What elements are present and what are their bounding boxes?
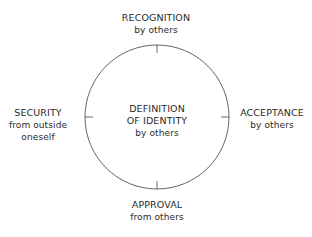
node-subtitle: from others	[107, 211, 207, 223]
node-title: SECURITY	[0, 107, 80, 119]
center-label: DEFINITION OF IDENTITY by others	[102, 103, 212, 139]
center-line-2: OF IDENTITY	[102, 115, 212, 127]
node-approval: APPROVAL from others	[107, 199, 207, 223]
node-security: SECURITY from outside oneself	[0, 107, 80, 143]
node-acceptance: ACCEPTANCE by others	[227, 107, 312, 131]
center-line-1: DEFINITION	[102, 103, 212, 115]
node-subtitle: from outside	[0, 119, 80, 131]
node-subtitle-line2: oneself	[0, 131, 80, 143]
node-recognition: RECOGNITION by others	[106, 12, 206, 36]
node-subtitle: by others	[106, 24, 206, 36]
center-line-3: by others	[102, 127, 212, 139]
node-title: APPROVAL	[107, 199, 207, 211]
node-title: RECOGNITION	[106, 12, 206, 24]
node-subtitle: by others	[227, 119, 312, 131]
node-title: ACCEPTANCE	[227, 107, 312, 119]
